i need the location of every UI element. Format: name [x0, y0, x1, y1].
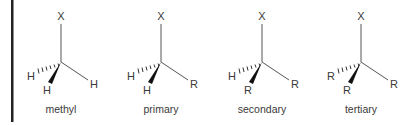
molecule-primary: X H H R primary	[127, 10, 198, 115]
atom-wedge: R	[343, 84, 351, 96]
molecule-label: primary	[143, 103, 179, 115]
atom-wedge: H	[143, 84, 151, 96]
atom-top: X	[57, 10, 65, 22]
atom-right: R	[291, 78, 299, 90]
atom-right: H	[90, 78, 98, 90]
atom-right: R	[190, 78, 198, 90]
bond-right	[61, 62, 88, 80]
molecule-label: tertiary	[345, 103, 378, 115]
bond-right	[262, 62, 289, 80]
atom-top: X	[157, 10, 165, 22]
atom-hashed: H	[27, 70, 35, 82]
molecule-methyl: X H H H methyl	[27, 10, 98, 115]
atom-wedge: H	[43, 84, 51, 96]
atom-hashed: R	[327, 70, 335, 82]
atom-wedge: R	[244, 84, 252, 96]
atom-right: R	[390, 78, 398, 90]
atom-top: X	[258, 10, 266, 22]
molecule-label: secondary	[238, 103, 287, 115]
atom-hashed: H	[228, 70, 236, 82]
molecule-label: methyl	[46, 103, 77, 115]
molecule-tertiary: X R R R tertiary	[327, 10, 398, 115]
bond-right	[161, 62, 188, 80]
bond-right	[361, 62, 388, 80]
atom-top: X	[357, 10, 365, 22]
molecule-secondary: X H R R secondary	[228, 10, 299, 115]
alkyl-halide-diagram: X H H H methyl X H H R	[0, 0, 413, 125]
left-border-bar	[11, 0, 14, 122]
atom-hashed: H	[127, 70, 135, 82]
